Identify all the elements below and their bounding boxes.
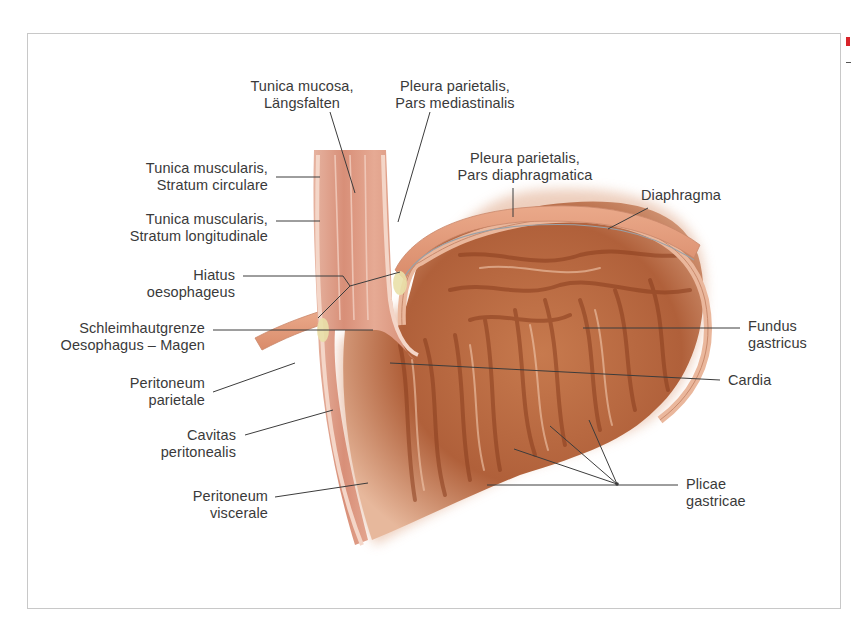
label-plicae-gastricae: Plicae gastricae <box>686 476 746 510</box>
label-pleura-diaphragmatica: Pleura parietalis, Pars diaphragmatica <box>450 150 600 184</box>
label-pleura-mediastinalis: Pleura parietalis, Pars mediastinalis <box>385 78 525 112</box>
label-peritoneum-parietale: Peritoneum parietale <box>90 375 205 409</box>
label-schleimhautgrenze: Schleimhautgrenze Oesophagus – Magen <box>30 320 205 354</box>
label-stratum-longitudinale: Tunica muscularis, Stratum longitudinale <box>60 211 268 245</box>
label-peritoneum-viscerale: Peritoneum viscerale <box>150 488 268 522</box>
label-stratum-circulare: Tunica muscularis, Stratum circulare <box>80 160 268 194</box>
hiatus-fat-right <box>393 271 407 295</box>
label-hiatus-oesophageus: Hiatus oesophageus <box>120 267 235 301</box>
label-diaphragma: Diaphragma <box>641 187 721 204</box>
label-cavitas-peritonealis: Cavitas peritonealis <box>120 427 236 461</box>
label-fundus-gastricus: Fundus gastricus <box>748 318 807 352</box>
label-cardia: Cardia <box>728 372 771 389</box>
label-tunica-mucosa: Tunica mucosa, Längsfalten <box>232 78 372 112</box>
diaphragm-left <box>255 312 324 350</box>
